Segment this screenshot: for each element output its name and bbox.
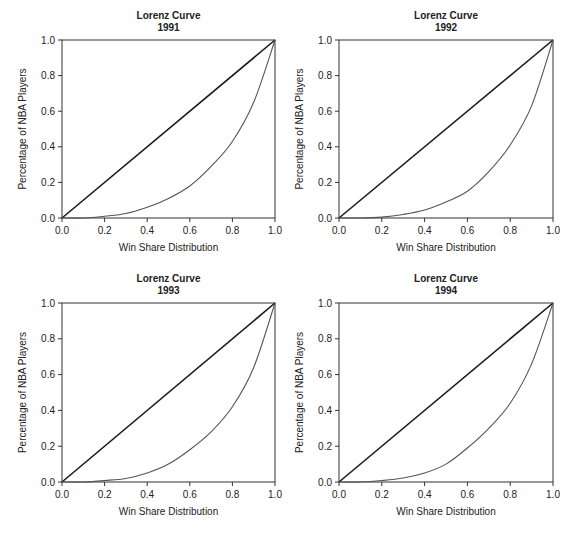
- y-tick-label: 1.0: [318, 35, 332, 46]
- y-tick-label: 0.4: [41, 141, 55, 152]
- y-axis-label: Percentage of NBA Players: [17, 68, 28, 189]
- x-tick-label: 0.0: [332, 225, 346, 236]
- x-tick-label: 0.2: [375, 489, 389, 500]
- x-tick-label: 0.4: [418, 225, 432, 236]
- x-tick-label: 0.6: [460, 489, 474, 500]
- y-tick-label: 0.8: [318, 333, 332, 344]
- x-axis-label: Win Share Distribution: [119, 506, 218, 517]
- y-tick-label: 0.2: [318, 441, 332, 452]
- y-axis: 0.00.20.40.60.81.0Percentage of NBA Play…: [17, 298, 62, 488]
- y-axis: 0.00.20.40.60.81.0Percentage of NBA Play…: [17, 35, 62, 224]
- y-axis-label: Percentage of NBA Players: [294, 332, 305, 453]
- line-of-equality: [339, 303, 553, 482]
- chart-title: Lorenz Curve: [414, 273, 478, 284]
- x-tick-label: 0.8: [225, 225, 239, 236]
- x-axis: 0.00.20.40.60.81.0Win Share Distribution: [55, 482, 282, 517]
- x-tick-label: 0.4: [140, 489, 154, 500]
- chart-subtitle-year: 1994: [435, 285, 458, 296]
- x-axis-label: Win Share Distribution: [396, 506, 495, 517]
- chart-panel-1994: Lorenz Curve19940.00.20.40.60.81.0Win Sh…: [294, 273, 560, 517]
- x-tick-label: 0.4: [140, 225, 154, 236]
- line-of-equality: [339, 40, 553, 218]
- y-tick-label: 0.6: [41, 106, 55, 117]
- y-tick-label: 0.2: [41, 441, 55, 452]
- chart-subtitle-year: 1991: [157, 22, 180, 33]
- x-tick-label: 0.0: [55, 225, 69, 236]
- y-tick-label: 0.4: [318, 141, 332, 152]
- y-axis-label: Percentage of NBA Players: [294, 68, 305, 189]
- y-tick-label: 0.4: [318, 405, 332, 416]
- x-tick-label: 0.2: [98, 225, 112, 236]
- lorenz-curve-figure: Lorenz Curve19910.00.20.40.60.81.0Win Sh…: [0, 0, 577, 533]
- y-tick-label: 1.0: [318, 298, 332, 309]
- x-axis-label: Win Share Distribution: [396, 242, 495, 253]
- x-tick-label: 1.0: [546, 225, 560, 236]
- y-tick-label: 0.6: [318, 106, 332, 117]
- x-tick-label: 1.0: [546, 489, 560, 500]
- y-tick-label: 1.0: [41, 298, 55, 309]
- y-axis-label: Percentage of NBA Players: [17, 332, 28, 453]
- x-tick-label: 0.2: [98, 489, 112, 500]
- line-of-equality: [62, 40, 275, 218]
- chart-title: Lorenz Curve: [137, 10, 201, 21]
- x-tick-label: 0.6: [460, 225, 474, 236]
- y-tick-label: 0.0: [318, 213, 332, 224]
- y-tick-label: 0.0: [41, 477, 55, 488]
- x-tick-label: 0.0: [332, 489, 346, 500]
- y-tick-label: 0.0: [318, 477, 332, 488]
- chart-panel-1991: Lorenz Curve19910.00.20.40.60.81.0Win Sh…: [17, 10, 282, 253]
- y-tick-label: 0.2: [318, 177, 332, 188]
- y-tick-label: 0.6: [41, 369, 55, 380]
- x-tick-label: 0.8: [225, 489, 239, 500]
- x-axis: 0.00.20.40.60.81.0Win Share Distribution: [55, 218, 282, 253]
- y-tick-label: 1.0: [41, 35, 55, 46]
- x-tick-label: 0.8: [503, 225, 517, 236]
- chart-title: Lorenz Curve: [414, 10, 478, 21]
- x-tick-label: 0.4: [418, 489, 432, 500]
- line-of-equality: [62, 303, 275, 482]
- y-tick-label: 0.0: [41, 213, 55, 224]
- y-tick-label: 0.4: [41, 405, 55, 416]
- y-tick-label: 0.8: [318, 70, 332, 81]
- chart-panel-1992: Lorenz Curve19920.00.20.40.60.81.0Win Sh…: [294, 10, 560, 253]
- y-axis: 0.00.20.40.60.81.0Percentage of NBA Play…: [294, 298, 339, 488]
- x-axis: 0.00.20.40.60.81.0Win Share Distribution: [332, 482, 560, 517]
- x-axis-label: Win Share Distribution: [119, 242, 218, 253]
- chart-panel-1993: Lorenz Curve19930.00.20.40.60.81.0Win Sh…: [17, 273, 282, 517]
- x-tick-label: 0.6: [183, 225, 197, 236]
- y-tick-label: 0.6: [318, 369, 332, 380]
- x-tick-label: 0.6: [183, 489, 197, 500]
- chart-subtitle-year: 1993: [157, 285, 180, 296]
- y-tick-label: 0.8: [41, 333, 55, 344]
- x-tick-label: 1.0: [268, 225, 282, 236]
- x-axis: 0.00.20.40.60.81.0Win Share Distribution: [332, 218, 560, 253]
- x-tick-label: 0.8: [503, 489, 517, 500]
- chart-subtitle-year: 1992: [435, 22, 458, 33]
- x-tick-label: 0.2: [375, 225, 389, 236]
- chart-title: Lorenz Curve: [137, 273, 201, 284]
- y-tick-label: 0.8: [41, 70, 55, 81]
- x-tick-label: 1.0: [268, 489, 282, 500]
- y-axis: 0.00.20.40.60.81.0Percentage of NBA Play…: [294, 35, 339, 224]
- x-tick-label: 0.0: [55, 489, 69, 500]
- y-tick-label: 0.2: [41, 177, 55, 188]
